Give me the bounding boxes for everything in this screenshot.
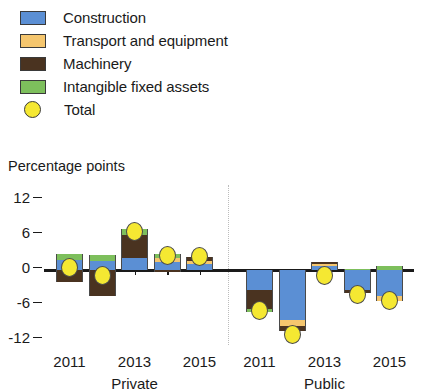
transport-swatch-icon [20, 34, 46, 48]
x-axis-tick-mark [135, 271, 137, 275]
x-axis-label-public-2011: 2011 [235, 353, 285, 370]
legend-item-transport-and-equipment[interactable]: Transport and equipment [20, 29, 420, 52]
legend-item-total[interactable]: Total [20, 98, 420, 121]
y-axis-tick-mark [33, 267, 42, 269]
x-axis-label-private-2013: 2013 [110, 353, 160, 370]
y-axis-tick-12: 12 [13, 189, 42, 206]
group-label-private: Private [90, 375, 180, 392]
bar-segment [311, 262, 338, 264]
machinery-swatch-icon [20, 57, 46, 71]
total-marker [159, 246, 176, 265]
x-axis-label-private-2011: 2011 [45, 353, 95, 370]
y-axis-tick-neg6: -6 [17, 294, 42, 311]
legend-item-machinery[interactable]: Machinery [20, 52, 420, 75]
y-axis-tick-mark [33, 337, 42, 339]
legend-item-construction[interactable]: Construction [20, 6, 420, 29]
total-marker [251, 301, 268, 320]
y-axis-tick-label: -6 [17, 294, 30, 311]
legend-item-intangible-fixed-assets[interactable]: Intangible fixed assets [20, 75, 420, 98]
bar-segment [121, 258, 148, 270]
construction-swatch-icon [20, 11, 46, 25]
total-marker [284, 325, 301, 344]
y-axis-tick-label: 6 [22, 224, 30, 241]
bar-segment [279, 270, 306, 320]
y-axis-tick-mark [33, 302, 42, 304]
bar-segment [154, 270, 181, 272]
total-marker-icon [24, 101, 41, 118]
legend-label: Intangible fixed assets [63, 78, 209, 95]
legend-label: Transport and equipment [63, 32, 228, 49]
y-axis-tick-6: 6 [22, 224, 42, 241]
total-marker [61, 258, 78, 277]
x-axis-label-public-2015: 2015 [365, 353, 415, 370]
bar-segment [344, 269, 371, 271]
chart-plot-area: 1260-6-12201120132015Private201120132015… [0, 185, 421, 350]
y-axis-tick-label: 12 [13, 189, 30, 206]
chart-legend: ConstructionTransport and equipmentMachi… [20, 6, 420, 121]
total-marker [191, 247, 208, 266]
y-axis-tick-mark [33, 197, 42, 199]
x-axis-label-public-2013: 2013 [300, 353, 350, 370]
total-marker [349, 285, 366, 304]
total-marker [316, 266, 333, 285]
y-axis-tick-label: -12 [8, 329, 30, 346]
total-marker [381, 291, 398, 310]
y-axis-tick-neg12: -12 [8, 329, 42, 346]
intangible-swatch-icon [20, 80, 46, 94]
bar-segment [376, 266, 403, 270]
group-divider [228, 185, 230, 345]
total-marker [94, 266, 111, 285]
bar-segment [246, 270, 273, 290]
y-axis-tick-mark [33, 232, 42, 234]
group-label-public: Public [280, 375, 370, 392]
bar-segment [89, 255, 116, 261]
legend-label: Total [64, 101, 95, 118]
y-axis-tick-0: 0 [22, 259, 42, 276]
y-axis-tick-label: 0 [22, 259, 30, 276]
legend-label: Machinery [63, 55, 131, 72]
x-axis-tick-mark [200, 271, 202, 275]
x-axis-label-private-2015: 2015 [175, 353, 225, 370]
legend-label: Construction [63, 9, 146, 26]
y-axis-title: Percentage points [8, 158, 125, 174]
